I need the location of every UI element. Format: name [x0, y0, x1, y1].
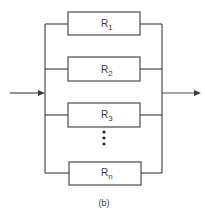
resistor-r3-label: R3 [101, 109, 113, 123]
resistor-rn-label: Rn [101, 167, 113, 181]
input-arrow-icon [38, 90, 45, 96]
figure-caption: (b) [99, 198, 110, 208]
parallel-circuit-diagram: R1 R2 R3 Rn (b) [0, 0, 205, 217]
ellipsis-dots [102, 130, 105, 145]
resistor-r1-label: R1 [101, 18, 113, 32]
output-arrow-icon [194, 90, 201, 96]
resistor-r2-label: R2 [101, 64, 113, 78]
